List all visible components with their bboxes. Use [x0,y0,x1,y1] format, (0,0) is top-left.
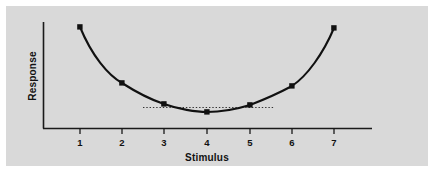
x-tick-label-5: 5 [247,137,253,148]
response-curve [80,27,334,112]
data-point-1 [77,24,82,29]
x-axis-tick-labels: 1 2 3 4 5 6 7 [77,137,336,148]
x-axis-ticks [80,129,334,135]
figure-root: 1 2 3 4 5 6 7 Stimulus Response [0,0,448,179]
y-axis-title: Response [27,51,38,101]
x-tick-label-3: 3 [161,137,166,148]
data-point-6 [289,83,294,88]
x-tick-label-2: 2 [119,137,124,148]
data-point-2 [119,80,124,85]
x-axis-title: Stimulus [185,152,229,163]
data-point-4 [204,109,209,114]
x-tick-label-7: 7 [331,137,336,148]
x-tick-label-1: 1 [77,137,83,148]
x-tick-label-4: 4 [204,137,210,148]
data-point-5 [247,102,252,107]
stimulus-response-chart: 1 2 3 4 5 6 7 Stimulus Response [0,0,448,179]
data-point-markers [77,24,336,114]
data-point-7 [331,25,336,30]
x-tick-label-6: 6 [289,137,294,148]
data-point-3 [161,101,166,106]
